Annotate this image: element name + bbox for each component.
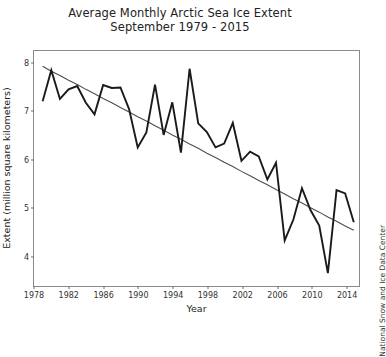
x-tick-label: 1990	[128, 291, 148, 300]
chart-title-line-2: September 1979 - 2015	[0, 20, 360, 34]
x-tick-label: 1998	[198, 291, 218, 300]
x-tick-label: 2002	[233, 291, 253, 300]
plot-area: 45678 1978198219861990199419982002200620…	[33, 50, 360, 287]
x-tick-mark	[312, 286, 313, 289]
x-tick-mark	[242, 286, 243, 289]
data-source-credit: National Snow and Ice Data Center	[379, 225, 386, 357]
x-tick-label: 2006	[267, 291, 287, 300]
y-tick-label: 6	[24, 155, 29, 164]
x-tick-mark	[68, 286, 69, 289]
x-tick-label: 1982	[59, 291, 79, 300]
sea-ice-extent-line	[43, 69, 354, 273]
trend-line	[43, 66, 354, 230]
x-tick-label: 1978	[24, 291, 44, 300]
y-axis-label: Extent (million square kilometers)	[1, 87, 12, 249]
y-tick-label: 8	[24, 59, 29, 68]
x-tick-mark	[34, 286, 35, 289]
y-tick-label: 4	[24, 252, 29, 261]
x-tick-mark	[173, 286, 174, 289]
y-tick-mark	[31, 111, 34, 112]
series-svg	[34, 51, 359, 286]
x-tick-label: 2014	[337, 291, 357, 300]
y-tick-label: 5	[24, 204, 29, 213]
y-tick-mark	[31, 159, 34, 160]
y-tick-mark	[31, 63, 34, 64]
x-tick-mark	[138, 286, 139, 289]
y-tick-mark	[31, 256, 34, 257]
x-tick-label: 1986	[93, 291, 113, 300]
x-tick-mark	[103, 286, 104, 289]
x-tick-mark	[277, 286, 278, 289]
chart-title-line-1: Average Monthly Arctic Sea Ice Extent	[0, 6, 360, 20]
x-tick-label: 1994	[163, 291, 183, 300]
x-tick-label: 2010	[302, 291, 322, 300]
chart-title: Average Monthly Arctic Sea Ice Extent Se…	[0, 6, 360, 34]
x-tick-mark	[207, 286, 208, 289]
x-axis-label: Year	[33, 303, 360, 314]
y-tick-mark	[31, 208, 34, 209]
y-tick-label: 7	[24, 107, 29, 116]
x-tick-mark	[347, 286, 348, 289]
